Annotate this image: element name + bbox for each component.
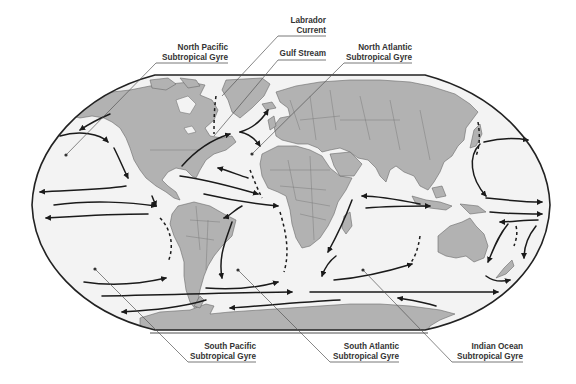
label-line: Gulf Stream — [250, 49, 326, 59]
label-line: South Pacific — [176, 342, 256, 352]
gyre-center-dot-icon — [93, 267, 96, 270]
label-line: Subtropical Gyre — [176, 352, 256, 362]
gyre-center-dot-icon — [361, 268, 364, 271]
label-indian-ocean-gyre: Indian Ocean Subtropical Gyre — [440, 342, 523, 362]
label-north-atlantic-gyre: North Atlantic Subtropical Gyre — [330, 43, 412, 63]
label-south-pacific-gyre: South Pacific Subtropical Gyre — [176, 342, 256, 362]
label-line: South Atlantic — [318, 342, 399, 352]
label-south-atlantic-gyre: South Atlantic Subtropical Gyre — [318, 342, 399, 362]
label-line: Subtropical Gyre — [150, 53, 228, 63]
label-line: Subtropical Gyre — [440, 352, 523, 362]
gyre-center-dot-icon — [64, 153, 67, 156]
gyre-center-dot-icon — [250, 152, 253, 155]
label-line: Indian Ocean — [440, 342, 523, 352]
label-line: North Atlantic — [330, 43, 412, 53]
label-gulf-stream: Gulf Stream — [250, 49, 326, 59]
label-line: North Pacific — [150, 43, 228, 53]
label-north-pacific-gyre: North Pacific Subtropical Gyre — [150, 43, 228, 63]
label-line: Subtropical Gyre — [318, 352, 399, 362]
label-line: Subtropical Gyre — [330, 53, 412, 63]
label-line: Current — [250, 26, 326, 36]
gyre-center-dot-icon — [236, 268, 239, 271]
label-line: Labrador — [250, 16, 326, 26]
label-labrador-current: Labrador Current — [250, 16, 326, 36]
